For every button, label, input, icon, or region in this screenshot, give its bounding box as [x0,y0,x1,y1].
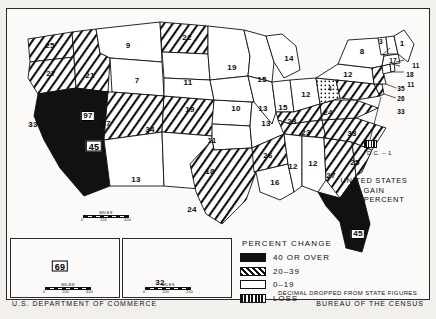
state-co [162,96,214,136]
state-value-wi: 15 [257,76,266,84]
map-figure: 25 27 45 97 21 9 7 27 13 34 33 22 11 19 … [0,0,436,319]
scalebar-main-tick-0: 0 [81,218,83,222]
scalebar-main-tick-2: 400 [124,218,131,222]
state-value-wa: 25 [45,42,54,50]
scalebar-hawaii-tick-1: 100 [162,290,169,294]
state-value-ok: 18 [205,168,214,176]
scalebar-alaska: MILES 0 200 400 [42,282,94,294]
scalebar-hawaii-tick-2: 200 [186,290,193,294]
legend-title: PERCENT CHANGE [242,239,360,248]
state-value-nm: 33 [28,121,37,129]
legend-label-0-19: 0–19 [273,280,294,289]
summary-line-3: 19.2 PERCENT [324,195,424,205]
state-value-tx: 24 [187,206,196,214]
legend-swatch-solid-icon [240,253,266,262]
state-value-ri: 11 [407,82,414,89]
footer-bureau: BUREAU OF THE CENSUS [316,300,424,307]
state-value-ca: 45 [86,141,102,152]
summary-line-2: GAIN [324,186,424,196]
state-sd [162,52,210,80]
state-value-nv: 97 [81,111,95,121]
state-value-ks: 11 [208,137,217,145]
footer-department: U.S. DEPARTMENT OF COMMERCE [12,300,157,307]
state-value-mi: 14 [284,55,293,63]
scalebar-hawaii-tick-0: 0 [143,290,145,294]
state-value-ar: 26 [263,152,272,160]
scalebar-alaska-tick-2: 400 [86,290,93,294]
legend-swatch-white-icon [240,280,266,289]
state-ok [212,124,252,150]
scalebar-alaska-tick-0: 0 [43,290,45,294]
state-value-il: 13 [258,105,267,113]
dc-note: D.C. − 1 [367,150,392,156]
national-summary: UNITED STATES GAIN 19.2 PERCENT [324,176,424,205]
state-value-nh: 11 [412,63,419,70]
state-value-de: 33 [397,109,405,116]
summary-line-1: UNITED STATES [324,176,424,186]
legend-label-20-39: 20–39 [273,267,300,276]
state-value-wv: 4 [328,86,332,93]
state-value-ny: 8 [360,48,365,56]
legend-swatch-loss-icon [240,294,266,303]
state-value-id: 21 [85,72,94,80]
state-tx [190,140,256,224]
state-value-me: 1 [400,40,405,48]
legend-item-40-or-over: 40 OR OVER [240,252,360,263]
state-value-ne: 19 [185,106,194,114]
state-value-mo: 13 [261,120,270,128]
state-value-ky: 23 [287,118,296,126]
state-value-sc: 25 [350,159,359,167]
state-value-az: 13 [131,176,140,184]
state-value-tn: 23 [301,129,310,137]
legend-item-20-39: 20–39 [240,266,360,277]
state-value-fl: 45 [351,229,365,239]
dc-swatch [364,140,377,148]
state-value-la: 16 [270,179,279,187]
state-value-co: 34 [145,126,154,134]
legend-item-0-19: 0–19 [240,279,360,290]
scalebar-main-ticks: 0 200 400 [81,218,131,222]
scalebar-alaska-tick-1: 200 [62,290,69,294]
scalebar-hawaii: MILES 0 100 200 [142,282,194,294]
state-value-wy: 7 [135,77,140,85]
legend-label-40-or-over: 40 OR OVER [273,253,330,262]
state-value-nc: 33 [347,130,356,138]
state-value-ms: 12 [288,163,297,171]
legend-swatch-hatch-icon [240,267,266,276]
scalebar-alaska-ticks: 0 200 400 [43,290,93,294]
state-value-md: 26 [397,96,405,103]
state-value-al: 12 [308,160,317,168]
scalebar-main-tick-1: 200 [100,218,107,222]
state-value-or: 27 [46,70,55,78]
state-value-oh: 12 [301,91,310,99]
state-value-mt: 9 [126,42,131,50]
state-value-nd: 22 [182,34,191,42]
state-value-sd: 11 [184,79,193,87]
state-value-ut: 27 [101,120,110,128]
state-value-vt: 3 [379,39,383,46]
inset-value-alaska: 69 [52,261,68,272]
state-ia [210,76,254,102]
scalebar-hawaii-ticks: 0 100 200 [143,290,193,294]
scalebar-main: MILES 0 200 400 [76,210,136,222]
state-value-pa: 12 [343,71,352,79]
state-value-nj: 35 [397,86,405,93]
decimal-note: DECIMAL DROPPED FROM STATE FIGURES [278,290,417,296]
state-value-mn: 19 [227,64,236,72]
state-value-in: 15 [278,104,287,112]
state-value-va: 24 [323,109,332,117]
state-value-ia: 10 [231,105,240,113]
state-value-ma: 17 [389,58,397,65]
state-value-ct: 18 [406,72,414,79]
